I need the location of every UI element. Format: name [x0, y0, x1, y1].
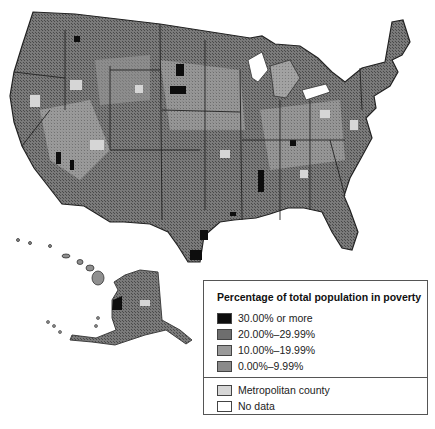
swatch-0-10 [217, 361, 232, 372]
swatch-10-20 [217, 345, 232, 356]
legend-item-20-30: 20.00%–29.99% [217, 327, 315, 341]
legend-item-30-plus: 30.00% or more [217, 311, 313, 325]
swatch-30-plus [217, 313, 232, 324]
legend-item-metro: Metropolitan county [217, 383, 330, 397]
legend: Percentage of total population in povert… [203, 280, 428, 415]
legend-divider [204, 377, 427, 378]
hawaii [17, 239, 105, 286]
swatch-no-data [217, 401, 232, 412]
alaska [70, 270, 192, 345]
legend-item-10-20: 10.00%–19.99% [217, 343, 315, 357]
swatch-metro [217, 385, 232, 396]
legend-item-no-data: No data [217, 399, 275, 413]
legend-item-0-10: 0.00%–9.99% [217, 359, 303, 373]
legend-title: Percentage of total population in povert… [217, 291, 421, 303]
swatch-20-30 [217, 329, 232, 340]
